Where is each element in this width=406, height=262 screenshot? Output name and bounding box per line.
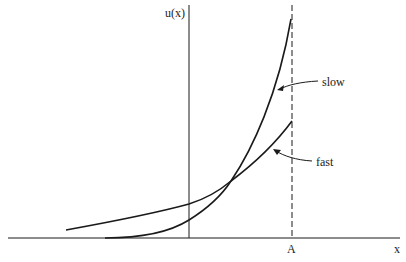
fast-arrow [276,151,312,161]
slow-arrowhead-icon [277,85,284,91]
boundary-label: A [287,242,296,256]
slow-curve [105,19,291,238]
y-axis-label: u(x) [165,6,185,20]
fast-arrowhead-icon [273,149,281,155]
fast-label: fast [316,155,334,169]
slow-label: slow [322,75,345,89]
slow-arrow [280,81,318,89]
fast-curve [66,121,292,230]
x-axis-label: x [394,242,400,256]
diagram-canvas: u(x) slow fast A x [0,0,406,262]
